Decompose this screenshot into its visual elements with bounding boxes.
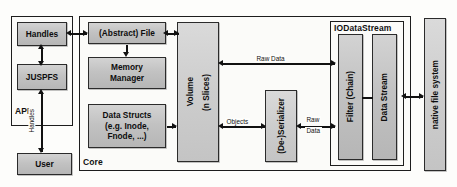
box-juspfs-label: JUSPFS <box>24 72 60 83</box>
edge-label-raw-data-top: Raw Data <box>255 55 286 62</box>
arrow-datastructs-volume <box>172 123 177 129</box>
architecture-diagram: API Core IODataStream Handles JUSPFS Use… <box>0 0 457 187</box>
edge-label-objects: Objects <box>225 118 250 125</box>
arrow-raw-data-low-right <box>331 123 336 129</box>
connector-objects <box>221 126 265 128</box>
box-handles[interactable]: Handles <box>17 22 67 46</box>
box-juspfs[interactable]: JUSPFS <box>17 64 67 90</box>
connector-raw-data-top <box>222 63 335 65</box>
arrow-datastream-nativefs-right <box>419 93 424 99</box>
box-memory-manager-line2: Manager <box>108 73 146 84</box>
box-data-stream-label: Data Stream <box>377 73 392 121</box>
box-handles-label: Handles <box>24 29 60 40</box>
arrow-objects-right <box>261 123 266 129</box>
container-core-label: Core <box>83 157 103 167</box>
arrow-handles-file-right <box>83 30 88 36</box>
box-filter-chain[interactable]: Filter (Chain) <box>338 34 363 160</box>
box-data-structs-line2: (e.g. Inode, <box>103 121 151 132</box>
arrow-datastream-nativefs-left <box>401 93 406 99</box>
edge-label-raw-data-low-1: Raw <box>305 116 321 123</box>
box-data-stream[interactable]: Data Stream <box>372 34 397 160</box>
box-serializer[interactable]: (De-)Serializer <box>265 90 297 162</box>
arrow-file-memory-down <box>123 52 129 57</box>
arrow-juspfs-user-up <box>38 89 44 94</box>
box-serializer-label: (De-)Serializer <box>274 98 289 154</box>
arrow-raw-data-low-left <box>296 123 301 129</box>
box-volume[interactable]: Volume (n Slices) <box>177 22 219 162</box>
box-native-file-system-label: native file system <box>428 60 443 129</box>
connector-juspfs-user <box>41 92 43 152</box>
arrow-objects-left <box>218 123 223 129</box>
box-memory-manager[interactable]: Memory Manager <box>88 57 166 89</box>
edge-label-raw-data-low-2: Data <box>305 127 322 134</box>
connector-filter-datastream <box>362 97 373 99</box>
arrow-raw-data-top-right <box>331 60 336 66</box>
box-memory-manager-line1: Memory <box>109 62 145 73</box>
box-user[interactable]: User <box>17 153 72 175</box>
box-abstract-file[interactable]: (Abstract) File <box>88 22 166 44</box>
arrow-handles-juspfs-up <box>38 44 44 49</box>
connector-handles-juspfs <box>41 48 43 62</box>
edge-label-handles: Handles <box>28 108 35 134</box>
box-user-label: User <box>33 159 55 170</box>
box-data-structs[interactable]: Data Structs (e.g. Inode, Fnode, ...) <box>88 104 166 148</box>
container-iodatastream-label: IODataStream <box>334 23 391 33</box>
box-data-structs-line1: Data Structs <box>101 110 154 121</box>
box-native-file-system[interactable]: native file system <box>424 18 446 171</box>
box-volume-line2: (n Slices) <box>199 74 214 111</box>
arrow-handles-file-left <box>66 30 71 36</box>
arrow-handles-juspfs-down <box>38 61 44 66</box>
arrow-file-volume-right <box>174 30 179 36</box>
arrow-file-volume-left <box>163 30 168 36</box>
box-filter-chain-label: Filter (Chain) <box>343 71 358 122</box>
box-abstract-file-label: (Abstract) File <box>97 28 157 39</box>
arrow-raw-data-top-left <box>218 60 223 66</box>
box-data-structs-line3: Fnode, ...) <box>105 131 148 142</box>
arrow-juspfs-user-down <box>38 148 44 153</box>
box-volume-line1: Volume <box>183 77 198 106</box>
